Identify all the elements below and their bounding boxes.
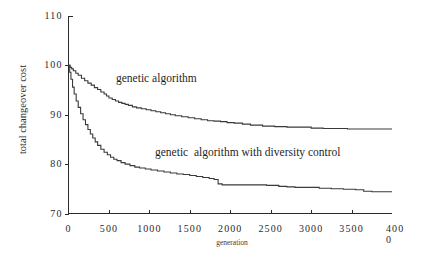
x-tick-label: 4000: [386, 223, 408, 245]
y-tick-label: 100: [37, 59, 63, 70]
series-label-genetic-algorithm: genetic algorithm: [116, 72, 197, 84]
chart-figure: total changeover cost generation genetic…: [0, 0, 421, 271]
y-tick-label: 110: [37, 10, 63, 21]
chart-series-lines: [69, 65, 393, 191]
x-axis-title: generation: [182, 238, 282, 247]
x-tick-label: 2500: [251, 223, 291, 234]
x-tick-label: 500: [89, 223, 129, 234]
y-tick-label: 90: [37, 109, 63, 120]
x-tick-label: 3500: [332, 223, 372, 234]
x-tick-label: 1500: [170, 223, 210, 234]
y-tick-label: 80: [37, 158, 63, 169]
chart-axes: [69, 16, 393, 214]
x-tick-marks: [110, 210, 353, 214]
y-axis-title: total changeover cost: [17, 50, 28, 170]
x-tick-label: 2000: [210, 223, 250, 234]
y-tick-marks: [65, 66, 69, 215]
series-label-genetic-algorithm-diversity-control: genetic algorithm with diversity control: [155, 146, 341, 158]
x-tick-label: 0: [49, 223, 89, 234]
x-tick-label: 3000: [291, 223, 331, 234]
x-tick-label: 1000: [129, 223, 169, 234]
y-tick-label: 70: [37, 208, 63, 219]
